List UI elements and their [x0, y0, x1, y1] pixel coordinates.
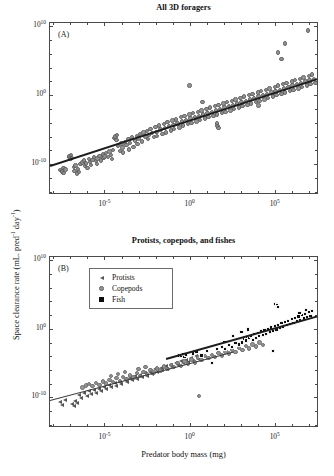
x-tick-mark-top	[104, 257, 105, 260]
y-tick-mark	[50, 123, 52, 124]
panel-a-tag: (A)	[58, 30, 69, 39]
circle-marker	[283, 41, 287, 45]
x-tick-mark	[53, 191, 54, 193]
x-tick-mark-top	[122, 23, 123, 25]
x-tick-base: 10	[185, 432, 192, 441]
triangle-left-marker	[104, 387, 108, 391]
panel-a-plot-area[interactable]: (A)	[49, 22, 318, 194]
x-tick-mark	[190, 423, 191, 426]
x-tick-mark-top	[275, 257, 276, 260]
x-tick-base: 10	[99, 432, 106, 441]
circle-marker	[291, 88, 295, 92]
square-marker	[304, 308, 308, 312]
y-tick-mark	[50, 40, 52, 41]
y-tick-mark	[50, 192, 52, 193]
circle-marker	[200, 100, 204, 104]
legend-item-copepods[interactable]: Copepods	[94, 283, 167, 294]
y-tick-exp: -10	[39, 157, 46, 163]
y-tick-mark-right	[315, 123, 317, 124]
y-tick-mark-right	[315, 411, 317, 412]
y-tick-mark-right	[315, 356, 317, 357]
y-tick-base: 10	[33, 20, 40, 29]
y-tick-mark-right	[315, 274, 317, 275]
x-tick-mark	[309, 191, 310, 193]
y-tick-mark-right	[314, 260, 317, 261]
circle-marker	[240, 104, 244, 108]
x-tick-mark	[139, 424, 140, 426]
square-marker	[199, 353, 203, 357]
x-tick-mark-top	[258, 257, 259, 259]
y-axis-label: Space clearance rate (mL. pred-1 day-1)	[12, 209, 21, 340]
y-tick-mark-right	[314, 26, 317, 27]
y-tick-mark	[50, 95, 53, 96]
x-tick-label: 100	[178, 199, 202, 208]
y-tick-mark	[50, 397, 53, 398]
y-tick-mark-right	[315, 109, 317, 110]
x-tick-exp: -5	[106, 431, 111, 437]
circle-marker	[121, 150, 125, 154]
circle-marker	[256, 103, 260, 107]
circle-marker	[232, 107, 236, 111]
y-tick-mark	[50, 274, 52, 275]
y-tick-exp: 0	[43, 321, 46, 327]
y-tick-mark-right	[315, 288, 317, 289]
y-tick-mark	[50, 109, 52, 110]
x-tick-mark	[139, 191, 140, 193]
legend-item-protists[interactable]: Protists	[94, 272, 167, 283]
triangle-left-marker	[109, 385, 113, 389]
panel-b-plot-area[interactable]: (B) ProtistsCopepodsFish	[49, 256, 318, 427]
x-tick-mark	[241, 424, 242, 426]
x-tick-mark-top	[53, 257, 54, 259]
y-tick-label: 1010	[20, 254, 46, 263]
legend-item-fish[interactable]: Fish	[94, 294, 167, 305]
x-tick-mark-top	[156, 257, 157, 259]
x-tick-mark	[122, 424, 123, 426]
square-marker	[297, 311, 301, 315]
x-tick-mark	[87, 191, 88, 193]
x-tick-mark-top	[173, 23, 174, 25]
x-tick-mark-top	[258, 23, 259, 25]
y-tick-label: 1010	[20, 20, 46, 29]
square-marker	[215, 347, 219, 351]
y-tick-mark	[50, 150, 52, 151]
circle-marker	[115, 133, 119, 137]
circle-marker	[187, 83, 191, 87]
circle-marker	[136, 367, 140, 371]
y-tick-label: 10-10	[20, 158, 46, 167]
x-tick-mark	[53, 424, 54, 426]
circle-marker	[155, 134, 159, 138]
circle-marker	[172, 127, 176, 131]
triangle-left-marker	[75, 401, 79, 405]
y-tick-mark	[50, 26, 53, 27]
y-tick-mark-right	[315, 343, 317, 344]
x-tick-mark-top	[292, 257, 293, 259]
x-tick-mark-top	[241, 257, 242, 259]
x-tick-base: 10	[270, 432, 277, 441]
y-tick-mark	[50, 288, 52, 289]
y-tick-mark	[50, 315, 52, 316]
circle-marker	[123, 370, 127, 374]
triangle-left-marker	[60, 403, 64, 407]
y-tick-exp: 10	[41, 19, 46, 25]
x-tick-mark-top	[156, 23, 157, 25]
circle-marker	[266, 96, 270, 100]
x-tick-mark-top	[275, 23, 276, 26]
x-tick-mark	[292, 424, 293, 426]
y-tick-mark	[50, 384, 52, 385]
x-tick-exp: 0	[192, 431, 195, 437]
square-marker	[276, 305, 280, 309]
y-tick-exp: -10	[39, 390, 46, 396]
circle-marker	[77, 170, 81, 174]
y-axis-label-text-b: day	[12, 217, 21, 231]
circle-marker	[146, 137, 150, 141]
x-tick-mark-top	[104, 23, 105, 26]
x-tick-mark	[309, 424, 310, 426]
panel-b-legend: ProtistsCopepodsFish	[89, 268, 173, 309]
x-tick-label: 105	[263, 432, 287, 441]
x-tick-mark	[258, 424, 259, 426]
y-tick-mark	[50, 411, 52, 412]
x-tick-mark-top	[87, 23, 88, 25]
x-tick-mark	[70, 191, 71, 193]
y-tick-base: 10	[31, 158, 38, 167]
x-tick-mark-top	[53, 23, 54, 25]
